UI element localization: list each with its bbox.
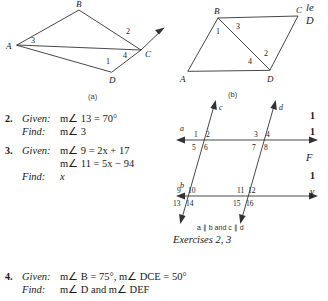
problem-2-given-row: Given:m∠ 13 = 70°	[22, 113, 117, 126]
figure-b: A B C D 1 3 2 4 (b)	[178, 4, 313, 102]
clip-fragment-num-2: 1	[310, 126, 315, 137]
arrowhead-d-bottom	[239, 214, 246, 224]
angle-number-8: 8	[264, 143, 268, 152]
angle-number-14: 14	[186, 199, 194, 208]
problem-3-given-row: Given:m∠ 9 = 2x + 17	[22, 145, 134, 158]
problem-3: Given:m∠ 9 = 2x + 17 m∠ 11 = 5x − 94 Fin…	[22, 145, 134, 183]
figure-a-svg: A B C D 3 2 4 1	[4, 2, 164, 102]
angle-number-15: 15	[233, 199, 241, 208]
angle-number-12: 12	[248, 186, 256, 195]
line-label-c: c	[219, 103, 223, 112]
clip-fragment-f: F	[306, 152, 312, 163]
figure-a-caption: (a)	[88, 92, 97, 101]
figure-b-svg: A B C D 1 3 2 4	[178, 4, 313, 94]
arrowhead-ray	[156, 28, 165, 34]
angle-number-4: 4	[248, 57, 252, 66]
angle-number-1: 1	[194, 130, 198, 139]
angle-number-7: 7	[252, 143, 256, 152]
angle-number-4: 4	[266, 130, 270, 139]
angle-number-2: 2	[206, 130, 210, 139]
vertex-label-d: D	[266, 74, 274, 84]
figure-transversal: a b c d 1 2 5 6 3 4 7 8 9 10 13 14 11 12…	[152, 100, 328, 220]
angle-number-1: 1	[216, 27, 220, 36]
problem-2-number: 2.	[5, 113, 13, 124]
given-line-1: m∠ 9 = 2x + 17	[60, 145, 129, 156]
given-label: Given:	[22, 113, 60, 126]
figure-b-caption: (b)	[228, 90, 237, 99]
angle-number-3: 3	[31, 36, 35, 45]
angle-number-10: 10	[188, 186, 196, 195]
transversal-svg: a b c d 1 2 5 6 3 4 7 8 9 10 13 14 11 12…	[152, 100, 328, 220]
figure-a: A B C D 3 2 4 1 (a)	[4, 2, 164, 102]
vertex-label-c: C	[296, 5, 303, 15]
quadrilateral-abcd	[17, 10, 141, 72]
angle-number-3: 3	[254, 130, 258, 139]
clip-fragment-y: γ	[310, 186, 314, 197]
find-label: Find:	[22, 171, 60, 184]
problem-3-find-row: Find:x	[22, 171, 134, 184]
problem-3-number: 3.	[5, 145, 13, 156]
problem-4-number: 4.	[5, 271, 13, 282]
given-label: Given:	[22, 271, 60, 284]
vertex-label-d: D	[108, 75, 116, 85]
problem-4-given-row: Given:m∠ B = 75°, m∠ DCE = 50°	[22, 271, 187, 284]
arrowhead-c-top	[210, 100, 217, 110]
find-label: Find:	[22, 284, 60, 297]
angle-number-5: 5	[192, 143, 196, 152]
given-line-1: m∠ B = 75°, m∠ DCE = 50°	[60, 271, 187, 282]
angle-number-11: 11	[237, 186, 244, 195]
line-label-d: d	[279, 103, 284, 112]
angle-number-6: 6	[204, 143, 208, 152]
problem-4: Given:m∠ B = 75°, m∠ DCE = 50° Find:m∠ D…	[22, 271, 187, 297]
arrowhead-d-top	[270, 100, 277, 110]
arrowhead-a-right	[309, 137, 318, 144]
arrowhead-a-left	[176, 137, 185, 144]
vertex-label-a: A	[179, 74, 186, 84]
angle-number-9: 9	[177, 186, 181, 195]
vertex-label-b: B	[214, 6, 220, 16]
clip-fragment-d: D	[306, 15, 314, 26]
angle-number-1: 1	[106, 57, 110, 66]
vertex-label-a: A	[5, 41, 12, 51]
problem-4-find-row: Find:m∠ D and m∠ DEF	[22, 284, 187, 297]
line-label-a: a	[180, 124, 184, 133]
diagonal-bd	[218, 18, 270, 70]
angle-number-2: 2	[264, 49, 268, 58]
given-label: Given:	[22, 145, 60, 158]
problem-2: Given:m∠ 13 = 70° Find:m∠ 3	[22, 113, 117, 139]
find-line-1: m∠ D and m∠ DEF	[60, 284, 149, 295]
problem-2-find-row: Find:m∠ 3	[22, 126, 117, 139]
clip-fragment-le: le	[306, 2, 314, 13]
angle-number-16: 16	[246, 199, 254, 208]
angle-number-2: 2	[126, 27, 130, 36]
clip-fragment-num-3: 1	[310, 170, 315, 181]
vertex-label-c: C	[145, 49, 152, 59]
find-label: Find:	[22, 126, 60, 139]
clip-fragment-num-1: 1	[310, 110, 315, 121]
arrowhead-c-bottom	[179, 214, 186, 224]
problem-3-given-row-2: m∠ 11 = 5x − 94	[22, 158, 134, 171]
angle-number-4: 4	[123, 51, 127, 60]
find-line-1: x	[60, 171, 65, 182]
diagonal-ac	[17, 45, 141, 50]
parallel-note: a ∥ b and c ∥ d	[197, 224, 244, 232]
find-line-1: m∠ 3	[60, 126, 86, 137]
given-line-2: m∠ 11 = 5x − 94	[60, 158, 134, 169]
exercises-caption: Exercises 2, 3	[173, 234, 231, 245]
given-line-1: m∠ 13 = 70°	[60, 113, 117, 124]
vertex-label-b: B	[76, 0, 82, 9]
angle-number-13: 13	[173, 199, 181, 208]
textbook-page: A B C D 3 2 4 1 (a) A B C D 1 3 2 4 (b)	[0, 0, 328, 301]
angle-number-3: 3	[236, 22, 240, 31]
